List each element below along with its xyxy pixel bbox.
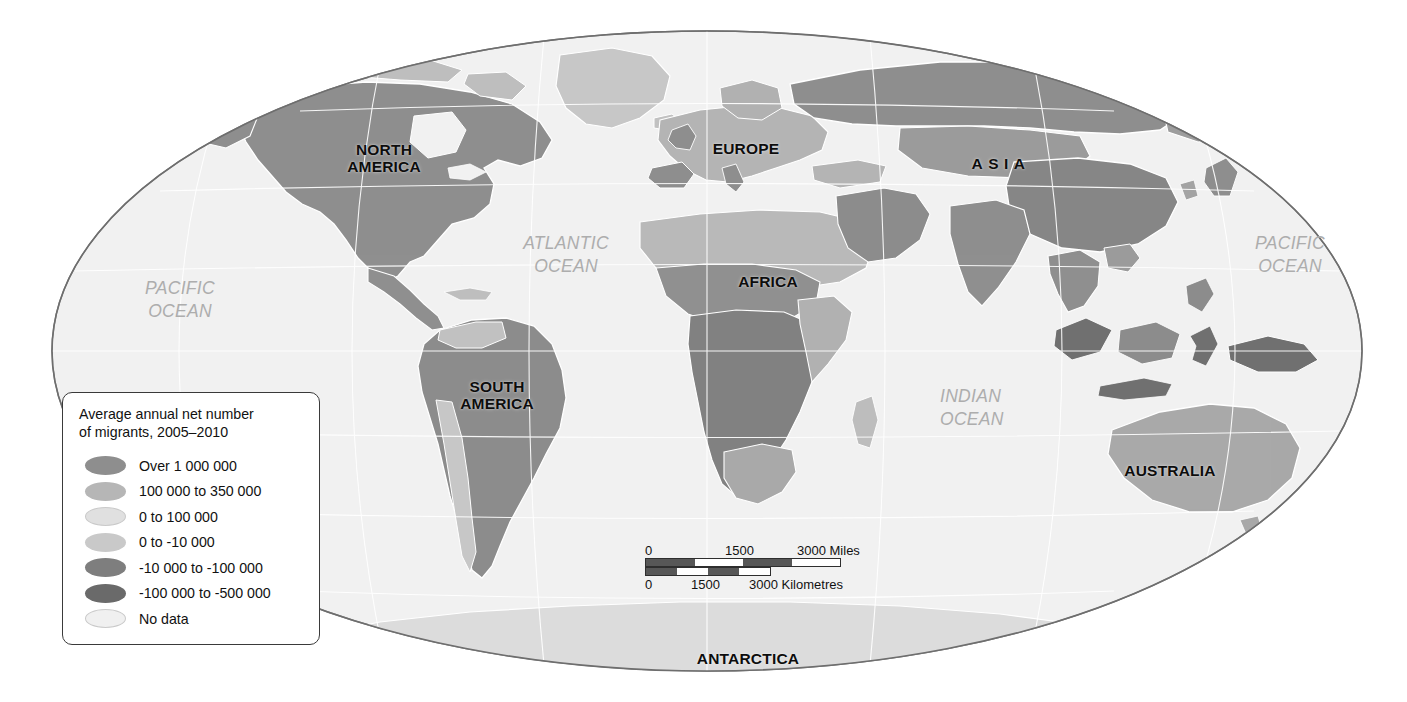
legend-item: -10 000 to -100 000 — [63, 555, 319, 581]
scalebar-tick: 1500 — [725, 543, 754, 558]
legend-item-label: No data — [139, 611, 189, 627]
legend-item-label: 0 to -10 000 — [139, 534, 215, 550]
scalebar-miles-bar — [645, 558, 841, 567]
legend-swatch-icon — [85, 558, 126, 577]
map-scalebar: 0 1500 3000 Miles 0 1500 3000 Kilometres — [645, 543, 841, 592]
scalebar-tick: 1500 — [691, 577, 720, 592]
world-map: NORTH AMERICA EUROPE ASIA AFRICA SOUTH A… — [0, 0, 1407, 702]
legend-swatch-icon — [85, 507, 126, 526]
scalebar-tick: 0 — [645, 577, 652, 592]
scalebar-tick: 3000 Miles — [797, 543, 860, 558]
legend-item: Over 1 000 000 — [63, 453, 319, 479]
scalebar-segment — [708, 568, 739, 575]
legend-item: 100 000 to 350 000 — [63, 479, 319, 505]
legend-item: 0 to -10 000 — [63, 530, 319, 556]
scalebar-segment — [739, 568, 770, 575]
legend-item-label: 0 to 100 000 — [139, 509, 218, 525]
scalebar-segment — [695, 559, 744, 566]
legend-swatch-icon — [85, 609, 126, 628]
legend-swatch-icon — [85, 456, 126, 475]
scalebar-tick: 3000 Kilometres — [749, 577, 843, 592]
scalebar-segment — [677, 568, 708, 575]
legend-item: 0 to 100 000 — [63, 504, 319, 530]
scalebar-tick: 0 — [645, 543, 652, 558]
legend-item-label: -100 000 to -500 000 — [139, 585, 271, 601]
legend-item: -100 000 to -500 000 — [63, 581, 319, 607]
scalebar-segment — [792, 559, 841, 566]
legend-swatch-icon — [85, 533, 126, 552]
legend-items-list: Over 1 000 000 100 000 to 350 000 0 to 1… — [63, 453, 319, 632]
map-legend: Average annual net number of migrants, 2… — [62, 392, 320, 645]
scalebar-km-labels: 0 1500 3000 Kilometres — [645, 576, 841, 592]
legend-title: Average annual net number of migrants, 2… — [63, 406, 319, 441]
legend-swatch-icon — [85, 482, 126, 501]
legend-item-label: -10 000 to -100 000 — [139, 560, 263, 576]
legend-item-label: 100 000 to 350 000 — [139, 483, 261, 499]
scalebar-segment — [743, 559, 792, 566]
legend-swatch-icon — [85, 584, 126, 603]
scalebar-miles-labels: 0 1500 3000 Miles — [645, 543, 841, 558]
legend-item-label: Over 1 000 000 — [139, 458, 237, 474]
legend-item: No data — [63, 606, 319, 632]
